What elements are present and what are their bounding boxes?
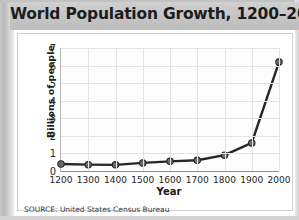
x-axis-tick-label: 2000 xyxy=(268,175,291,185)
y-axis-tick-label: 7 xyxy=(50,43,56,54)
plot-inner: 0123456712001300140015001600170018001900… xyxy=(61,48,279,171)
x-axis-tick-label: 1900 xyxy=(240,175,263,185)
chart-figure: World Population Growth, 1200–2000 Billi… xyxy=(0,0,299,220)
gridline-vertical xyxy=(143,48,144,171)
chart-title: World Population Growth, 1200–2000 xyxy=(10,3,294,25)
x-axis-tick-label: 1300 xyxy=(77,175,100,185)
page-edge-left xyxy=(0,0,14,220)
y-axis-tick-label: 3 xyxy=(50,113,56,124)
x-axis-label: Year xyxy=(60,186,278,197)
y-axis-tick-label: 6 xyxy=(50,60,56,71)
y-axis-tick-label: 2 xyxy=(50,130,56,141)
plot-area: 0123456712001300140015001600170018001900… xyxy=(60,48,279,172)
gridline-vertical xyxy=(279,48,280,171)
x-axis-tick-label: 1700 xyxy=(186,175,209,185)
y-axis-tick-label: 1 xyxy=(50,148,56,159)
gridline-vertical xyxy=(225,48,226,171)
gridline-vertical xyxy=(116,48,117,171)
gridline-vertical xyxy=(252,48,253,171)
x-axis-tick-label: 1200 xyxy=(50,175,73,185)
x-axis-tick-label: 1600 xyxy=(159,175,182,185)
x-axis-tick-label: 1800 xyxy=(213,175,236,185)
chart-card: Billions of people 012345671200130014001… xyxy=(17,33,293,211)
data-point-marker xyxy=(58,161,64,167)
x-axis-tick-label: 1400 xyxy=(104,175,127,185)
gridline-vertical xyxy=(170,48,171,171)
x-axis-tick-label: 1500 xyxy=(131,175,154,185)
gridline-vertical xyxy=(88,48,89,171)
y-axis-tick-label: 4 xyxy=(50,95,56,106)
page-edge-right xyxy=(295,0,299,220)
source-note: SOURCE: United States Census Bureau xyxy=(24,205,169,214)
gridline-vertical xyxy=(197,48,198,171)
page-edge-bottom xyxy=(0,216,299,220)
y-axis-tick-label: 5 xyxy=(50,78,56,89)
y-axis-label: Billions of people xyxy=(45,42,56,142)
